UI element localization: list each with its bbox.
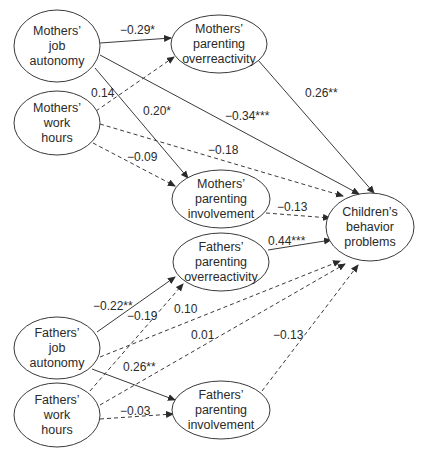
path-coefficient-label: −0.18: [208, 143, 239, 157]
path-coefficient-label: −0.13: [277, 200, 308, 214]
node-label-line: hours: [41, 423, 72, 437]
arrow-line: [100, 38, 171, 43]
node-label-line: Fathers’: [34, 326, 79, 340]
node-label-line: Fathers’: [198, 240, 243, 254]
path-coefficient-label: −0.29*: [120, 23, 155, 37]
node-fpi: Fathers’parentinginvolvement: [172, 381, 270, 439]
node-label-line: involvement: [188, 207, 255, 221]
path-coefficient-label: 0.10: [174, 302, 198, 316]
nodes-layer: Mothers’jobautonomyMothers’workhoursMoth…: [14, 10, 414, 447]
node-mpo: Mothers’parentingoverreactivity: [171, 15, 267, 73]
path-coefficient-label: −0.13: [273, 328, 304, 342]
path-coefficient-label: −0.34***: [225, 109, 270, 123]
node-fpo: Fathers’parentingoverreactivity: [173, 233, 269, 291]
node-fwh: Fathers’workhours: [14, 383, 100, 447]
node-fja: Fathers’jobautonomy: [14, 317, 100, 379]
node-label-line: job: [48, 341, 66, 355]
node-cbp: Children’sbehaviorproblems: [326, 193, 414, 261]
node-label-line: Mothers’: [195, 22, 243, 36]
node-label-line: overreactivity: [182, 52, 256, 66]
path-coefficient-label: 0.26**: [123, 360, 156, 374]
node-label-line: behavior: [346, 220, 394, 234]
node-label-line: hours: [41, 131, 72, 145]
path-coefficient-label: 0.44***: [268, 234, 306, 248]
node-label-line: work: [43, 408, 71, 422]
node-label-line: autonomy: [30, 356, 86, 370]
path-coefficient-label: 0.26**: [305, 86, 338, 100]
node-mpi: Mothers’parentinginvolvement: [172, 170, 270, 228]
node-label-line: Children’s: [342, 205, 397, 219]
path-coefficient-label: 0.01: [191, 328, 215, 342]
node-label-line: Fathers’: [198, 388, 243, 402]
path-coefficient-label: 0.14: [91, 86, 115, 100]
node-label-line: involvement: [188, 418, 255, 432]
node-mwh: Mothers’workhours: [14, 91, 100, 155]
path-arrow-mpo-to-cbp: [258, 60, 374, 193]
node-label-line: Mothers’: [33, 24, 81, 38]
node-label-line: work: [43, 116, 71, 130]
path-coefficient-label: 0.20*: [143, 104, 171, 118]
node-mja: Mothers’jobautonomy: [14, 10, 100, 82]
path-arrow-mja-to-mpo: [100, 38, 171, 43]
node-label-line: autonomy: [30, 54, 86, 68]
node-label-line: parenting: [195, 255, 247, 269]
node-label-line: Mothers’: [33, 101, 81, 115]
node-label-line: Fathers’: [34, 393, 79, 407]
node-label-line: Mothers’: [197, 177, 245, 191]
node-label-line: parenting: [195, 403, 247, 417]
arrow-line: [258, 60, 374, 193]
path-diagram: Mothers’jobautonomyMothers’workhoursMoth…: [0, 0, 428, 461]
node-label-line: parenting: [193, 37, 245, 51]
path-coefficient-label: −0.03: [120, 404, 151, 418]
node-label-line: overreactivity: [184, 270, 258, 284]
node-label-line: parenting: [195, 192, 247, 206]
node-label-line: job: [48, 39, 66, 53]
path-coefficient-label: −0.19: [127, 309, 158, 323]
path-coefficient-label: −0.09: [127, 150, 158, 164]
path-arrow-mwh-to-mpo: [96, 57, 174, 111]
node-label-line: problems: [344, 235, 395, 249]
arrow-line: [96, 57, 174, 111]
